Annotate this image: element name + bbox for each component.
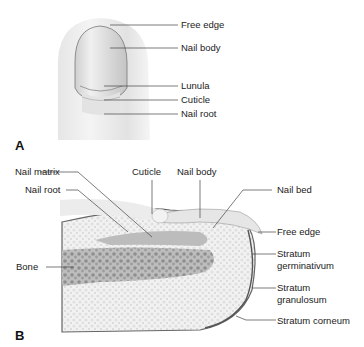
label-free-edge-b: Free edge: [277, 226, 320, 237]
label-nail-matrix: Nail matrix: [15, 166, 60, 177]
label-bone: Bone: [16, 261, 38, 272]
panel-letter-b: B: [15, 328, 24, 343]
panel-letter-a: A: [15, 138, 24, 153]
label-lunula: Lunula: [181, 80, 210, 91]
label-nail-body-a: Nail body: [181, 42, 221, 53]
label-nail-root-a: Nail root: [181, 108, 216, 119]
label-stratum-germinativum-1: Stratum: [277, 248, 310, 259]
label-cuticle-a: Cuticle: [181, 94, 210, 105]
label-cuticle-b: Cuticle: [132, 166, 161, 177]
label-free-edge-a: Free edge: [181, 19, 224, 30]
label-stratum-germinativum-2: germinativum: [277, 260, 334, 271]
label-nail-bed: Nail bed: [277, 184, 312, 195]
label-nail-root-b: Nail root: [25, 184, 60, 195]
label-nail-body-b: Nail body: [177, 166, 217, 177]
finger-top-view: [58, 18, 150, 140]
nail-cross-section: [60, 199, 262, 332]
label-stratum-granulosum-2: granulosum: [277, 294, 327, 305]
label-stratum-corneum: Stratum corneum: [277, 315, 350, 326]
label-stratum-granulosum-1: Stratum: [277, 282, 310, 293]
